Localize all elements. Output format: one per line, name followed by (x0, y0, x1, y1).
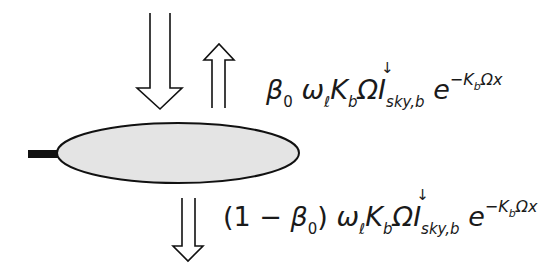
irradiance-symbol: I↓ (413, 203, 421, 230)
clumping-omega-symbol: Ω (393, 201, 414, 232)
k-symbol: K (330, 74, 348, 105)
omega-symbol: ω (301, 74, 324, 105)
down-arrow-superscript-icon: ↓ (416, 188, 429, 203)
irradiance-subscript: sky,b (421, 220, 460, 238)
leaf-stem (28, 150, 60, 158)
irradiance-subscript: sky,b (386, 93, 425, 111)
omega-subscript: ℓ (324, 93, 330, 111)
exp-base: e (468, 201, 485, 232)
exponent: −KbΩx (485, 197, 538, 216)
omega-subscript: ℓ (359, 220, 365, 238)
diagram-canvas (0, 0, 554, 279)
k-subscript: b (348, 93, 358, 111)
beta-symbol: β (266, 74, 283, 105)
exponent: −KbΩx (450, 70, 503, 89)
beta-subscript: 0 (283, 93, 293, 111)
exponent-prefix: −K (485, 197, 509, 216)
reflected-up-arrow-icon (204, 44, 234, 108)
k-symbol: K (365, 201, 383, 232)
k-subscript: b (383, 220, 393, 238)
exponent-prefix: −K (450, 70, 474, 89)
beta-subscript: 0 (308, 220, 318, 238)
clumping-omega-symbol: Ω (357, 74, 378, 105)
upward-flux-formula: β0 ωℓKbΩI↓sky,b e−KbΩx (266, 76, 502, 103)
exp-base: e (433, 74, 450, 105)
incoming-down-arrow-icon (137, 13, 182, 109)
irradiance-letter: I (378, 74, 386, 105)
omega-symbol: ω (336, 201, 359, 232)
down-arrow-superscript-icon: ↓ (381, 61, 394, 76)
exponent-subscript: b (474, 80, 481, 93)
exponent-subscript: b (509, 207, 516, 220)
exponent-suffix: Ωx (481, 70, 503, 89)
irradiance-symbol: I↓ (378, 76, 386, 103)
close-paren: ) (317, 201, 328, 232)
exponent-suffix: Ωx (516, 197, 538, 216)
beta-symbol: β (291, 201, 308, 232)
leaf-ellipse (57, 123, 299, 183)
transmitted-down-arrow-icon (173, 198, 203, 261)
downward-flux-formula: (1 − β0) ωℓKbΩI↓sky,b e−KbΩx (223, 203, 537, 230)
open-paren-term: (1 − (223, 201, 291, 232)
irradiance-letter: I (413, 201, 421, 232)
